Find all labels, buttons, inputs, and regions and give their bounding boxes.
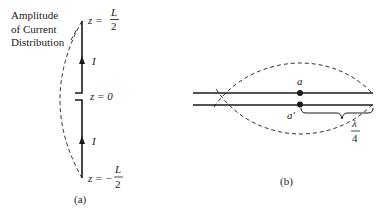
z-top-numerator: L — [110, 6, 117, 18]
current-label-top: I — [91, 55, 97, 67]
z-bottom-prefix: z = − — [87, 172, 113, 184]
lambda-denominator: 4 — [352, 132, 358, 144]
upper-antenna-arm — [75, 21, 82, 93]
point-a-prime-label: a′ — [287, 109, 296, 121]
z-bottom-numerator: L — [114, 163, 121, 175]
panel-a: I I z = L 2 z = 0 z = − L 2 (a) — [60, 6, 123, 206]
current-arrow-bottom-icon — [79, 136, 85, 144]
quarter-wave-brace — [301, 108, 373, 119]
z-bottom-label: z = − L 2 — [87, 163, 123, 190]
antenna-figure: I I z = L 2 z = 0 z = − L 2 (a) a — [0, 0, 383, 210]
quarter-wavelength-label: λ 4 — [351, 117, 360, 144]
z-bottom-denominator: 2 — [115, 178, 121, 190]
z-mid-label: z = 0 — [89, 90, 113, 102]
panel-b: a a′ λ 4 (b) — [193, 63, 373, 188]
z-top-prefix: z = — [87, 14, 102, 26]
point-a-prime-dot — [297, 102, 303, 108]
upper-envelope-curve — [214, 63, 372, 107]
current-arrow-top-icon — [79, 56, 85, 64]
point-a-dot — [297, 90, 303, 96]
current-label-bottom: I — [91, 135, 97, 147]
label-pointer-line — [71, 29, 77, 40]
panel-b-caption: (b) — [280, 175, 293, 188]
z-top-label: z = L 2 — [87, 6, 119, 32]
z-top-denominator: 2 — [111, 20, 117, 32]
point-a-label: a — [297, 75, 303, 87]
panel-a-caption: (a) — [74, 193, 87, 206]
lambda-numerator: λ — [351, 117, 357, 129]
